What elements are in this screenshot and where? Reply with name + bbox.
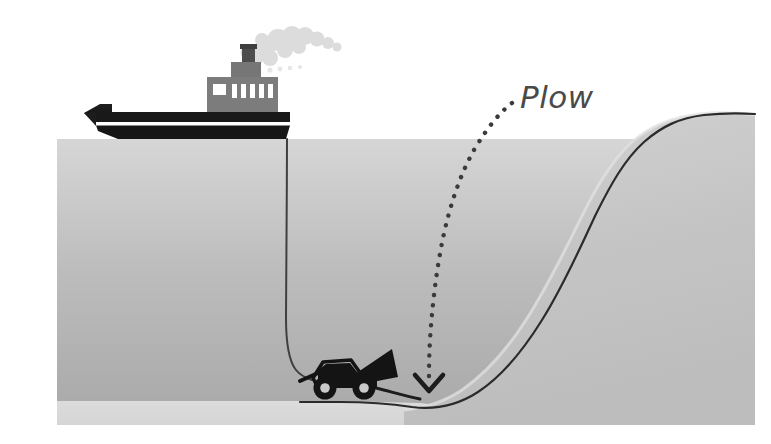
smoke-wisp [267, 65, 302, 73]
diagram-svg: Plow [0, 0, 771, 444]
funnel-cap [240, 44, 257, 49]
plow-label: Plow [520, 79, 594, 115]
ship-hull-stripe [96, 122, 290, 126]
ship-hull-lower [96, 126, 290, 140]
ship-bow [84, 112, 96, 126]
cable-laying-ship [84, 26, 342, 139]
illustration-canvas: Plow [0, 0, 771, 444]
